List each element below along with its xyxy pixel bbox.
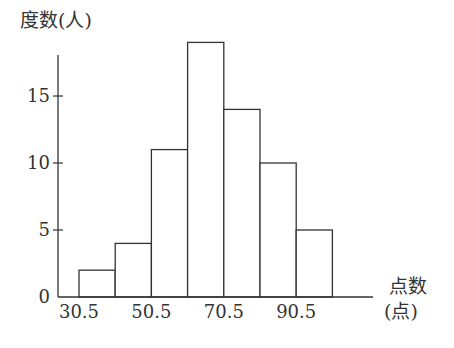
y-tick-label: 5 xyxy=(39,219,50,240)
x-tick-label: 70.5 xyxy=(204,301,244,322)
histogram-bar xyxy=(115,243,151,297)
x-axis-label-line1: 点数 xyxy=(389,275,427,297)
histogram-bar xyxy=(79,270,115,297)
histogram-bar xyxy=(188,42,224,297)
histogram-chart: 051015 30.550.570.590.5 度数(人) 点数 (点) xyxy=(0,0,454,348)
histogram-bar xyxy=(260,163,296,297)
x-tick-label: 90.5 xyxy=(276,301,316,322)
x-tick-label: 50.5 xyxy=(131,301,171,322)
x-tick-label: 30.5 xyxy=(59,301,99,322)
histogram-bar xyxy=(151,150,187,297)
y-tick-label: 0 xyxy=(39,286,50,307)
histogram-bar xyxy=(296,230,332,297)
y-tick-label: 15 xyxy=(27,85,50,106)
y-tick-label: 10 xyxy=(27,152,50,173)
y-axis-label: 度数(人) xyxy=(20,9,92,31)
x-ticks: 30.550.570.590.5 xyxy=(59,301,316,322)
x-axis-label-line2: (点) xyxy=(384,300,418,322)
histogram-bar xyxy=(224,109,260,297)
histogram-bars xyxy=(79,42,332,297)
